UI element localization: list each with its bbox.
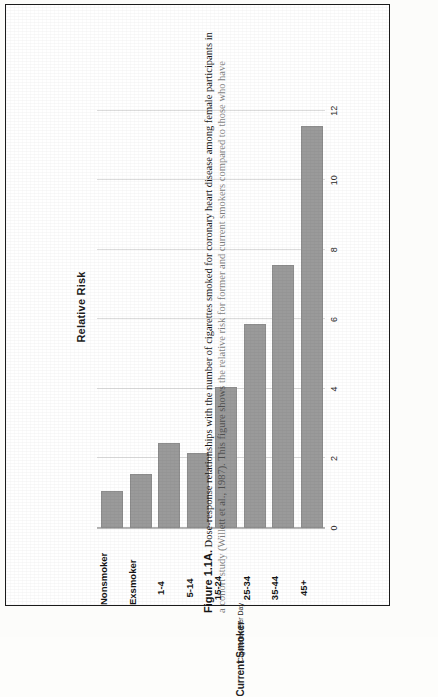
bar <box>272 265 294 528</box>
caption-line-2: a cohort study (Willett et al., 1987). T… <box>215 13 228 613</box>
bar <box>101 491 123 528</box>
caption-line-1: Figure 1.1A. Dose-response relationships… <box>202 13 215 613</box>
bar <box>130 474 152 528</box>
category-label: Nonsmoker <box>98 571 109 605</box>
bar-row <box>268 76 297 528</box>
figure-frame: Relative Risk 024681012 Cigarettes Per D… <box>5 4 390 606</box>
category-label: 45+ <box>297 571 308 605</box>
category-label: 25-34 <box>240 571 251 605</box>
bar-row <box>297 76 326 528</box>
axis-tick-label: 4 <box>329 386 339 391</box>
figure-caption: Figure 1.1A. Dose-response relationships… <box>202 13 228 613</box>
bar <box>301 126 323 528</box>
bar-row <box>154 76 183 528</box>
bar-row <box>97 76 126 528</box>
chart-title: Relative Risk <box>75 47 87 567</box>
axis-tick-label: 12 <box>329 106 339 116</box>
axis-tick-label: 0 <box>329 525 339 530</box>
category-label: 1-4 <box>155 571 166 605</box>
category-label: 5-14 <box>183 571 194 605</box>
category-label: Exsmoker <box>126 571 137 605</box>
category-label: 35-44 <box>269 571 280 605</box>
bar <box>158 443 180 528</box>
axis-tick-label: 8 <box>329 247 339 252</box>
bar <box>244 324 266 528</box>
figure-number: Figure 1.1A. <box>202 550 214 613</box>
bar-row <box>240 76 269 528</box>
bar-row <box>126 76 155 528</box>
group-label-current-smoker: Current Smoker <box>234 621 245 697</box>
axis-tick-label: 2 <box>329 456 339 461</box>
caption-text-1: Dose-response relationships with the num… <box>203 32 214 547</box>
axis-tick-label: 10 <box>329 175 339 185</box>
axis-tick-label: 6 <box>329 317 339 322</box>
